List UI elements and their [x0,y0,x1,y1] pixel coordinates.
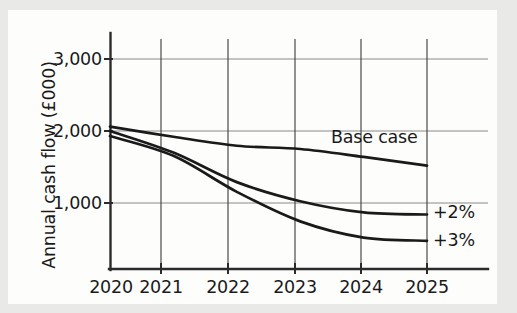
x-tick-label-2022: 2022 [197,277,259,297]
x-tick-label-2023: 2023 [264,277,326,297]
series-line-plus-3 [110,136,427,241]
chart-screenshot: Annual cash flow (£000) 3,000 2,000 1,00… [0,0,517,313]
x-tick-label-2024: 2024 [330,277,392,297]
y-tick-label-3000: 3,000 [18,49,102,69]
series-label-base-case: Base case [331,127,418,147]
series-label-plus-2: +2% [433,202,475,222]
y-tick-label-2000: 2,000 [18,121,102,141]
series-label-plus-3: +3% [433,230,475,250]
y-axis-title: Annual cash flow (£000) [39,50,59,280]
line-chart [0,0,517,313]
y-tick-label-1000: 1,000 [18,193,102,213]
grid-horizontal [110,59,488,203]
grid-vertical [161,39,427,269]
x-tick-label-2025: 2025 [396,277,458,297]
x-tick-label-2021: 2021 [130,277,192,297]
